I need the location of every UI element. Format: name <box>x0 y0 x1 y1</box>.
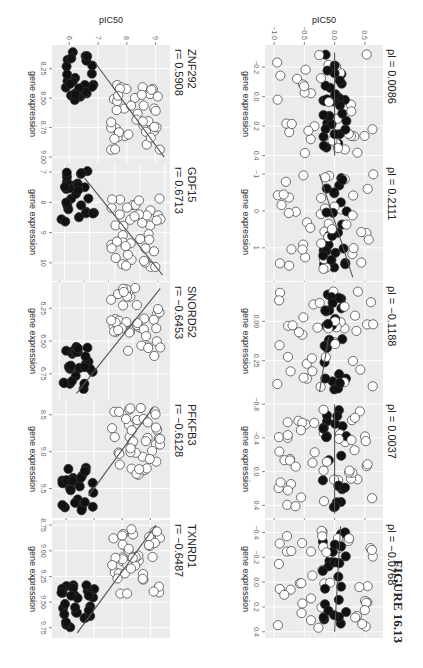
x-axis-label: gene expression <box>28 189 38 255</box>
y-tick-label: 8 <box>123 36 130 40</box>
panel-stat: ρl = 0.0037 <box>386 404 398 459</box>
book-page: TXNRD1r= −0.64878.759.009.259.509.759876… <box>0 0 423 668</box>
x-tick-label: 0.0 <box>253 467 260 477</box>
x-tick-label: 6.50 <box>40 334 47 348</box>
x-tick-label: 0 <box>253 209 260 213</box>
panel-stat: ρl = 0.2111 <box>386 167 398 220</box>
x-tick-label: 0.0 <box>253 577 260 587</box>
panel-title: SNORD52 <box>186 286 198 338</box>
x-axis-label: gene expression <box>28 308 38 374</box>
x-axis-label: gene expression <box>241 189 251 255</box>
panel-stat: r= −0.6453 <box>173 286 185 339</box>
x-tick-label: 0.25 <box>253 354 260 368</box>
x-tick-label: 0.4 <box>253 151 260 161</box>
x-tick-label: 1 <box>253 246 260 250</box>
panel-title: ZNF292 <box>186 49 198 89</box>
panel-title: TXNRD1 <box>186 524 198 568</box>
x-tick-label: 0.0 <box>253 92 260 102</box>
x-axis-label: gene expression <box>28 546 38 612</box>
x-tick-label: −0.2 <box>253 550 260 564</box>
y-tick-label: 6 <box>66 36 73 40</box>
x-tick-label: 8.25 <box>40 62 47 76</box>
panel-stat: r= −0.6487 <box>173 524 185 577</box>
y-tick-label: 7 <box>95 36 102 40</box>
x-tick-label: 6.25 <box>40 301 47 315</box>
y-tick-label: 0.0 <box>331 30 338 40</box>
x-tick-label: 10 <box>40 259 47 267</box>
x-tick-label: 0.2 <box>253 121 260 131</box>
x-tick-label: 0.00 <box>253 315 260 329</box>
x-tick-label: 9.00 <box>40 150 47 164</box>
panel-stat: r= 0.5908 <box>173 49 185 96</box>
panel-stat: r= −0.6128 <box>173 404 185 457</box>
panel-stat: r= 0.6713 <box>173 167 185 214</box>
y-axis-label: pIC50 <box>99 15 123 25</box>
x-tick-label: 6.75 <box>40 367 47 381</box>
figure-caption-text: FIGURE 16.13 <box>390 560 406 643</box>
x-tick-label: 8 <box>40 200 47 204</box>
x-axis-label: gene expression <box>28 426 38 492</box>
x-tick-label: 9.50 <box>40 595 47 609</box>
panel-stat: ρl = −0.1188 <box>386 286 398 347</box>
x-tick-label: −0.4 <box>253 431 260 445</box>
y-tick-label: 0.5 <box>361 30 368 40</box>
x-tick-label: 8.5 <box>40 410 47 420</box>
x-tick-label: 8.50 <box>40 91 47 105</box>
y-tick-label: 9 <box>152 36 159 40</box>
x-tick-label: 9.75 <box>40 621 47 635</box>
x-tick-label: 0.2 <box>253 602 260 612</box>
scatter-panel-bottom-5: ρl = 0.0086−0.20.00.20.40.50.0−0.5−1.0ge… <box>237 15 417 173</box>
figure-caption: FIGURE 16.13 <box>388 560 408 668</box>
x-axis-label: gene expression <box>28 71 38 137</box>
x-axis-label: gene expression <box>241 308 251 374</box>
x-axis-label: gene expression <box>241 546 251 612</box>
x-tick-label: 8.75 <box>40 121 47 135</box>
scatter-panel-top-5: ZNF292r= 0.59088.258.508.759.009876gene … <box>24 15 204 173</box>
y-axis-label: pIC50 <box>312 15 336 25</box>
y-tick-label: −0.5 <box>301 26 308 40</box>
x-tick-label: 9.5 <box>40 484 47 494</box>
x-tick-label: 9 <box>40 231 47 235</box>
x-tick-label: −0.2 <box>253 60 260 74</box>
y-tick-label: −1.0 <box>271 26 278 40</box>
x-axis-label: gene expression <box>241 71 251 137</box>
panel-title: PFKFB3 <box>186 404 198 446</box>
x-tick-label: 9.00 <box>40 544 47 558</box>
x-tick-label: 0.4 <box>253 627 260 637</box>
x-tick-label: 0.4 <box>253 500 260 510</box>
rotated-figure: TXNRD1r= −0.64878.759.009.259.509.759876… <box>0 0 423 668</box>
x-axis-label: gene expression <box>241 426 251 492</box>
x-tick-label: 9.25 <box>40 570 47 584</box>
x-tick-label: 9.0 <box>40 447 47 457</box>
panel-stat: ρl = 0.0086 <box>386 49 398 104</box>
